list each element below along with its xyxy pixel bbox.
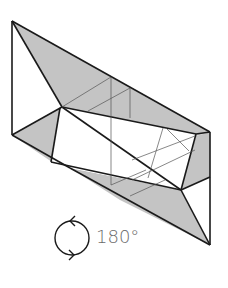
rotate-icon — [55, 216, 89, 260]
rotation-label: 180° — [96, 226, 139, 247]
